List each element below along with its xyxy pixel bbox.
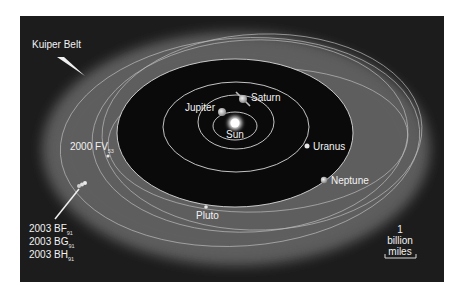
neptune-label: Neptune [331, 175, 369, 186]
scale-bar-value: 1 [397, 224, 403, 235]
fv53-icon [106, 154, 109, 157]
pluto-icon [204, 205, 208, 209]
uranus-icon [305, 144, 310, 149]
kuiper-belt-label: Kuiper Belt [32, 39, 81, 50]
uranus-label: Uranus [313, 141, 345, 152]
jupiter-icon [218, 108, 226, 116]
scale-bar-unit-2: miles [388, 246, 411, 257]
sun-icon [231, 119, 240, 128]
jupiter-label: Jupiter [185, 102, 216, 113]
scale-bar-unit-1: billion [387, 235, 413, 246]
solar-system-diagram: Sun Jupiter Saturn Uranus Neptune Pluto … [0, 0, 462, 295]
pluto-label: Pluto [196, 210, 219, 221]
saturn-label: Saturn [251, 92, 280, 103]
sun-label: Sun [226, 129, 244, 140]
neptune-icon [321, 177, 327, 183]
